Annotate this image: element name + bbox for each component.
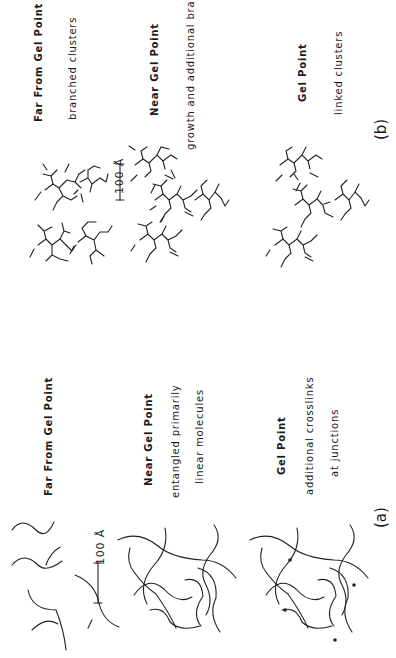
b-cluster-small [30, 223, 76, 261]
a-molecules-crosslinked [250, 525, 368, 642]
a-molecules-entangled [118, 525, 236, 632]
b-cluster-small [35, 164, 85, 210]
b-cluster-small [74, 166, 108, 194]
b-scale-bar [116, 164, 124, 200]
a-molecules-far [12, 522, 119, 650]
a-scale-bar [94, 563, 102, 603]
b-cluster-linked [266, 147, 369, 267]
b-cluster-growing [129, 146, 229, 262]
b-cluster-small [70, 222, 112, 264]
figure-drawing [0, 0, 396, 658]
